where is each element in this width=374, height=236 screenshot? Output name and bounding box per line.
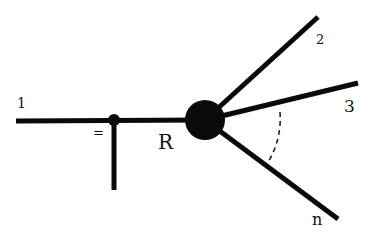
label-out-3: 3 [344, 96, 355, 116]
label-out-2: 2 [316, 32, 324, 47]
label-equals: = [93, 125, 104, 140]
label-blob-R: R [158, 130, 174, 154]
dashed-arc-ellipsis [267, 112, 280, 164]
small-vertex-dot [108, 114, 120, 126]
outgoing-line-n [205, 120, 338, 219]
vertex-diagram: 1 = R 2 3 n [0, 0, 374, 236]
label-out-n: n [312, 210, 322, 229]
blob-vertex-R [185, 100, 225, 140]
label-incoming-1: 1 [17, 95, 26, 111]
